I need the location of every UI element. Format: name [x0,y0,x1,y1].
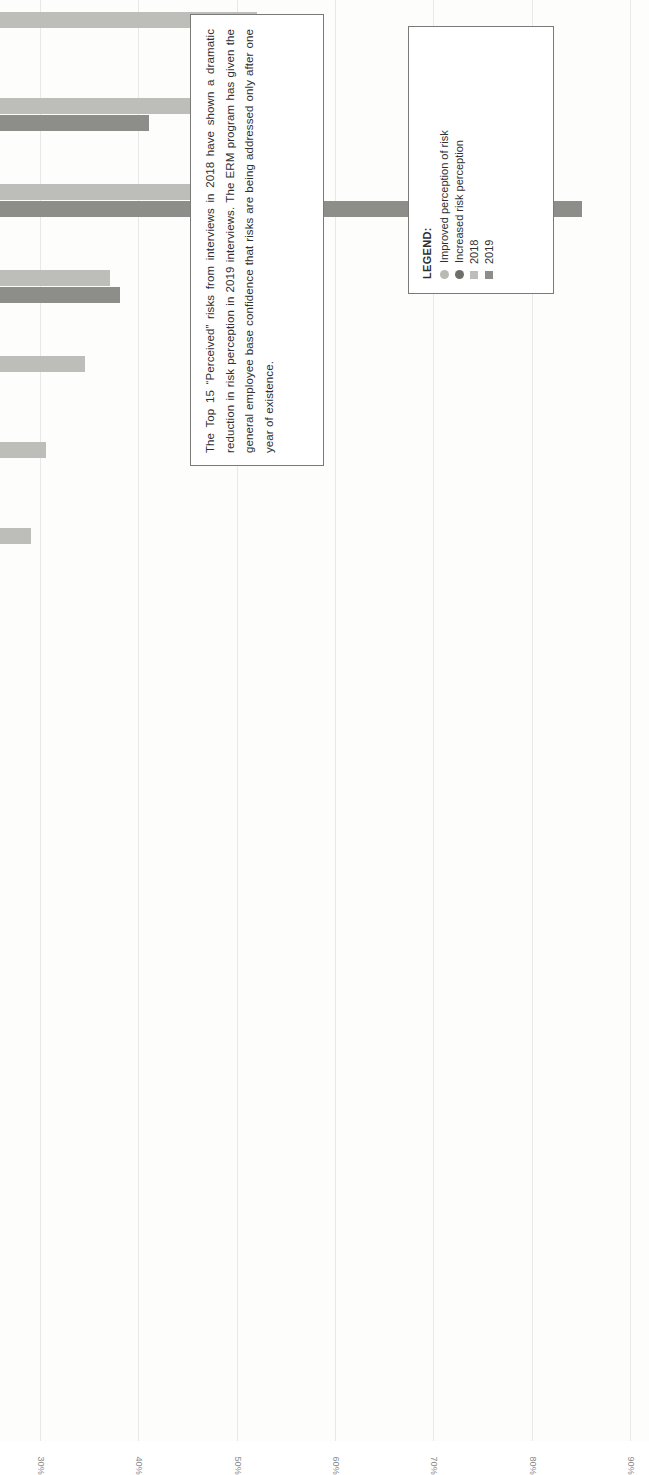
legend-item-label: 2019 [483,240,495,264]
legend-box: LEGEND:Improved perception of riskIncrea… [408,26,554,294]
legend-content: LEGEND:Improved perception of riskIncrea… [421,43,498,279]
bar-group [0,356,649,442]
bar-group [0,1216,649,1302]
legend-item-label: Improved perception of risk [438,130,450,263]
bar-group [0,958,649,1044]
bar-2018 [0,442,46,458]
legend-item: Increased risk perception [453,43,465,279]
value-axis-tick-label: 70% [429,1456,439,1475]
legend-square-icon [485,271,493,279]
legend-title: LEGEND: [421,43,433,279]
bar-2018 [0,528,31,544]
bar-2018 [0,356,85,372]
value-axis-tick-label: 80% [528,1456,538,1475]
value-axis-tick-label: 90% [626,1456,636,1475]
bar-group [0,1130,649,1216]
legend-item: 2019 [483,43,495,279]
value-axis-tick-label: 40% [134,1456,144,1475]
value-axis-tick-label: 60% [331,1456,341,1475]
bar-group [0,528,649,614]
legend-item: 2018 [468,43,480,279]
value-axis-tick-label: 50% [233,1456,243,1475]
callout-text: The Top 15 “Perceived” risks from interv… [201,29,279,453]
bar-group [0,872,649,958]
legend-dot-icon [440,270,449,279]
value-axis-tick-label: 30% [36,1456,46,1475]
bar-group [0,1044,649,1130]
callout-note: The Top 15 “Perceived” risks from interv… [190,14,324,466]
bar-2018 [0,184,193,200]
bar-group [0,786,649,872]
bar-group [0,700,649,786]
legend-item: Improved perception of risk [438,43,450,279]
bar-2018 [0,270,110,286]
bar-group [0,442,649,528]
bar-group [0,614,649,700]
legend-item-label: Increased risk perception [453,140,465,263]
legend-square-icon [470,271,478,279]
bar-2018 [0,98,203,114]
bar-2019 [0,115,149,131]
legend-dot-icon [455,270,464,279]
legend-item-label: 2018 [468,240,480,264]
bar-2019 [0,287,120,303]
